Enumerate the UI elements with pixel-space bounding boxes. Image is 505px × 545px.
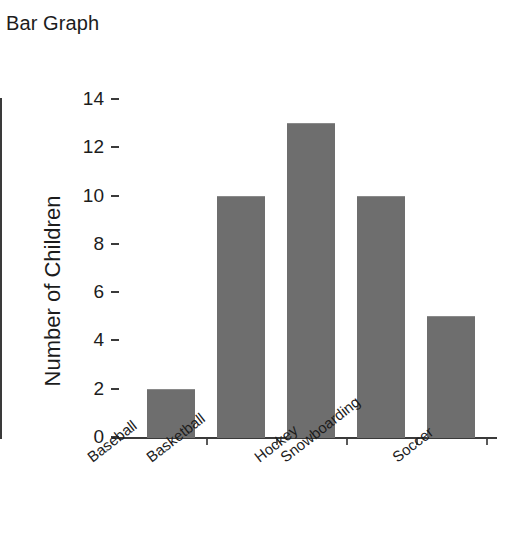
x-axis-tick bbox=[346, 439, 348, 445]
y-axis-tick-label: 6 bbox=[64, 282, 104, 301]
x-axis-tick bbox=[486, 439, 488, 445]
y-axis-tick bbox=[111, 388, 119, 390]
x-axis-tick bbox=[206, 439, 208, 445]
chart-title: Bar Graph bbox=[6, 10, 99, 36]
y-axis-tick bbox=[111, 146, 119, 148]
bar-chart-figure: Bar Graph Number of Children 02468101214… bbox=[0, 0, 505, 545]
y-axis-tick-label: 8 bbox=[64, 234, 104, 253]
y-axis-tick bbox=[111, 291, 119, 293]
y-axis-tick bbox=[111, 339, 119, 341]
y-axis-line bbox=[0, 98, 2, 439]
y-axis-tick-label: 10 bbox=[64, 186, 104, 205]
bar-hockey bbox=[287, 123, 335, 438]
y-axis-tick-label: 4 bbox=[64, 330, 104, 349]
y-axis-tick bbox=[111, 98, 119, 100]
bar-snowboarding bbox=[357, 196, 405, 438]
bar-basketball bbox=[217, 196, 265, 438]
y-axis-tick-label: 14 bbox=[64, 89, 104, 108]
y-axis-title: Number of Children bbox=[41, 136, 65, 446]
y-axis-tick-label: 2 bbox=[64, 379, 104, 398]
y-axis-tick bbox=[111, 195, 119, 197]
bar-soccer bbox=[427, 316, 475, 438]
y-axis-tick-label: 12 bbox=[64, 137, 104, 156]
y-axis-tick bbox=[111, 243, 119, 245]
